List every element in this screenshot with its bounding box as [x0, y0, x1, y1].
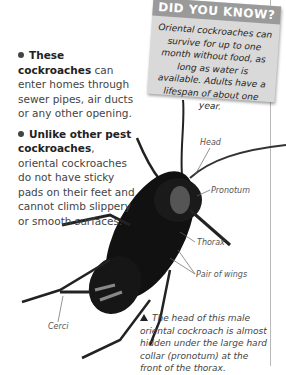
bullet-list: These cockroaches can enter homes throug…	[18, 48, 136, 234]
label-pair-of-wings: Pair of wings	[196, 270, 247, 279]
bullet-item: These cockroaches can enter homes throug…	[18, 48, 136, 121]
triangle-pointer-icon	[140, 314, 148, 321]
label-thorax: Thorax	[197, 238, 225, 247]
label-head: Head	[200, 138, 221, 147]
image-caption: The head of this male oriental cockroach…	[140, 312, 272, 375]
label-pronotum: Pronotum	[211, 186, 250, 195]
did-you-know-text: Oriental cockroaches can survive for up …	[145, 16, 279, 122]
bullet-item: Unlike other pest cockroaches, oriental …	[18, 127, 136, 229]
bullet-dot-icon	[18, 131, 24, 137]
did-you-know-box: DID YOU KNOW? Oriental cockroaches can s…	[147, 0, 281, 102]
bullet-dot-icon	[18, 52, 24, 58]
label-cerci: Cerci	[48, 322, 68, 331]
